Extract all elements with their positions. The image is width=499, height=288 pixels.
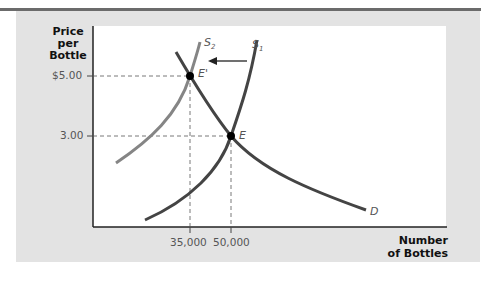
point-e-prime bbox=[186, 72, 194, 80]
point-e bbox=[227, 132, 235, 140]
label-e-prime: E' bbox=[198, 67, 208, 80]
chart-svg bbox=[0, 0, 499, 288]
supply-curve-s2 bbox=[116, 42, 200, 163]
label-s1: S1 bbox=[252, 38, 263, 53]
label-s2-sub: 2 bbox=[211, 43, 215, 51]
label-s2: S2 bbox=[204, 36, 215, 51]
label-s1-sub: 1 bbox=[259, 45, 263, 53]
label-s2-main: S bbox=[204, 36, 211, 49]
label-d: D bbox=[370, 205, 378, 218]
label-e: E bbox=[239, 129, 246, 142]
shift-arrow-head bbox=[208, 57, 217, 65]
label-s1-main: S bbox=[252, 38, 259, 51]
